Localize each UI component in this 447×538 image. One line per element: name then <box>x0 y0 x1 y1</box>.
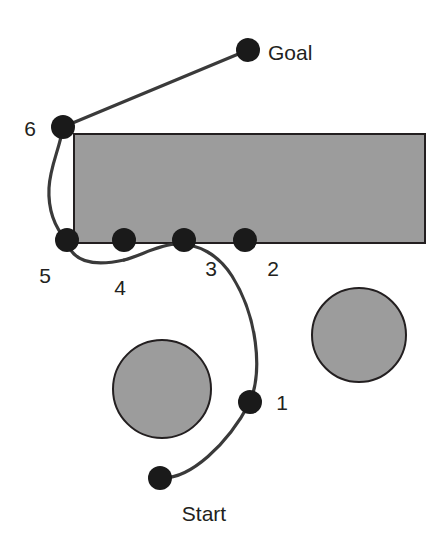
waypoint-2[interactable] <box>233 228 257 252</box>
path-segment-5-to-6 <box>49 127 67 240</box>
waypoint-4[interactable] <box>112 228 136 252</box>
path-segment-6-to-goal <box>63 50 248 127</box>
label-waypoint-3: 3 <box>205 257 217 280</box>
rectangle-obstacle <box>74 134 425 243</box>
label-start: Start <box>182 502 227 525</box>
label-goal: Goal <box>268 41 312 64</box>
circle-obstacle-right <box>312 288 406 382</box>
label-waypoint-6: 6 <box>24 117 36 140</box>
waypoint-1[interactable] <box>238 390 262 414</box>
labels-group: Goal 6 5 4 3 2 1 Start <box>24 41 312 525</box>
label-waypoint-5: 5 <box>39 264 51 287</box>
waypoint-start[interactable] <box>148 466 172 490</box>
waypoint-6[interactable] <box>51 115 75 139</box>
diagram-canvas: Goal 6 5 4 3 2 1 Start <box>0 0 447 538</box>
label-waypoint-4: 4 <box>114 276 126 299</box>
waypoint-5[interactable] <box>55 228 79 252</box>
waypoint-goal[interactable] <box>236 38 260 62</box>
path-planning-diagram: Goal 6 5 4 3 2 1 Start <box>0 0 447 538</box>
circle-obstacle-left <box>113 340 211 438</box>
label-waypoint-1: 1 <box>276 391 288 414</box>
label-waypoint-2: 2 <box>267 257 279 280</box>
waypoint-3[interactable] <box>172 228 196 252</box>
